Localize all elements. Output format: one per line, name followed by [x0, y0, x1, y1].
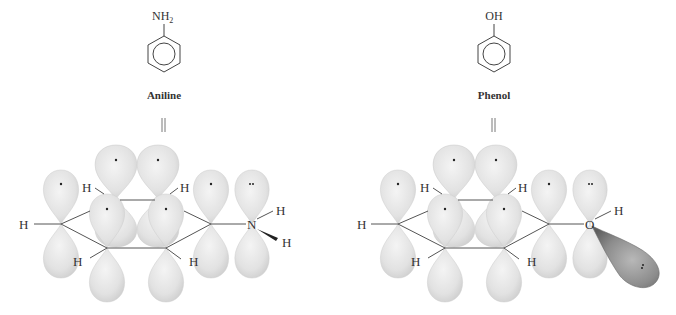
substituent-label: OH	[485, 9, 503, 23]
p-orbital-lobe	[193, 224, 228, 278]
hydrogen-label: H	[527, 254, 536, 269]
p-orbital-lobe	[43, 170, 78, 224]
hydrogen-label: H	[411, 254, 420, 269]
hydrogen-label: H	[420, 180, 429, 195]
molecule-name: Phenol	[478, 89, 510, 101]
hydrogen-label: H	[518, 180, 527, 195]
p-orbital-lobe	[43, 224, 78, 278]
hydrogen-label: H	[82, 180, 91, 195]
p-orbital-lobe	[486, 248, 521, 302]
hydrogen-label: H	[282, 235, 291, 250]
hydrogen-label: H	[19, 217, 28, 232]
aromatic-circle-icon	[153, 43, 175, 65]
hydrogen-label: H	[180, 180, 189, 195]
p-orbital-lobe	[380, 170, 415, 224]
p-orbital-lobe	[475, 145, 517, 199]
aromatic-circle-icon	[483, 43, 505, 65]
hydrogen-label: H	[357, 217, 366, 232]
p-orbital-lobe	[193, 170, 228, 224]
molecule-name: Aniline	[147, 89, 181, 101]
hydrogen-label: H	[73, 254, 82, 269]
p-orbital-lobe	[531, 224, 566, 278]
p-orbital-lobe	[433, 145, 475, 199]
nitrogen-label: N	[247, 217, 257, 232]
p-orbital-lobe	[380, 224, 415, 278]
oxygen-label: O	[585, 217, 594, 232]
p-orbital-lobe	[148, 248, 183, 302]
substituent-label: NH2	[152, 9, 173, 25]
aniline-panel: NH2 Aniline	[19, 9, 291, 302]
p-orbital-lobe	[531, 170, 566, 224]
phenol-structure: OH Phenol	[478, 9, 510, 132]
hydrogen-label: H	[614, 203, 623, 218]
p-orbital-lobe	[95, 145, 137, 199]
p-orbital-lobe	[89, 248, 124, 302]
p-orbital-lobe	[137, 145, 179, 199]
hydrogen-label: H	[189, 254, 198, 269]
hydrogen-label: H	[276, 203, 285, 218]
diagram-canvas: NH2 Aniline	[0, 0, 676, 315]
phenol-panel: OH Phenol	[357, 9, 659, 302]
p-orbital-lobe	[427, 248, 462, 302]
aniline-structure: NH2 Aniline	[147, 9, 181, 132]
